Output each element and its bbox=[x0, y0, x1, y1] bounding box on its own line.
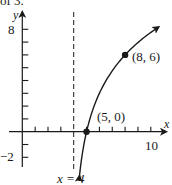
data-point bbox=[83, 129, 89, 135]
x-axis-label: x bbox=[163, 117, 170, 131]
asymptote-label-text: x = 4 bbox=[56, 171, 85, 185]
point-label-8-6: (8, 6) bbox=[132, 49, 160, 64]
y-axis-label: y bbox=[12, 8, 19, 22]
header-fragment: of 3. bbox=[0, 0, 24, 8]
y-axis-ticks bbox=[22, 29, 28, 157]
asymptote-label: x = 4 bbox=[56, 171, 85, 185]
point-label-5-0: (5, 0) bbox=[97, 109, 125, 124]
x-axis-ticks bbox=[35, 127, 151, 132]
y-tick-label-neg2: −2 bbox=[0, 149, 14, 164]
data-point bbox=[122, 52, 128, 58]
y-tick-label-8: 8 bbox=[8, 22, 15, 37]
log-function-graph: of 3. y 8 −2 x 10 (5, 0) (8, 6) x = 4 bbox=[0, 0, 172, 185]
x-tick-label-10: 10 bbox=[145, 138, 158, 153]
